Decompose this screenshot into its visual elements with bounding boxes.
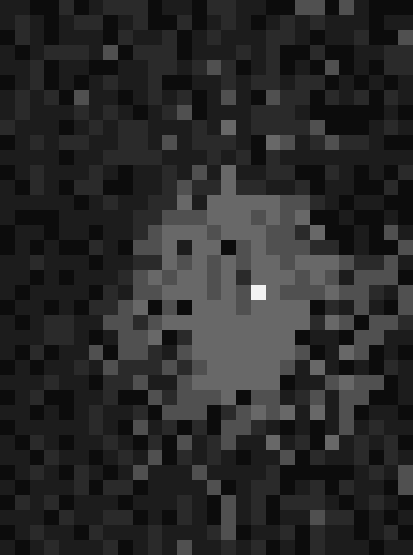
pixel: [74, 15, 89, 30]
pixel: [162, 345, 177, 360]
pixel: [384, 255, 399, 270]
pixel: [280, 210, 295, 225]
pixel: [339, 210, 354, 225]
pixel: [236, 15, 251, 30]
pixel: [44, 210, 59, 225]
pixel: [148, 285, 163, 300]
pixel: [44, 75, 59, 90]
pixel: [207, 330, 222, 345]
pixel: [177, 510, 192, 525]
pixel: [325, 300, 340, 315]
pixel: [192, 15, 207, 30]
pixel: [59, 240, 74, 255]
pixel: [251, 450, 266, 465]
pixel: [74, 75, 89, 90]
pixel: [266, 345, 281, 360]
pixel: [162, 135, 177, 150]
pixel: [398, 45, 413, 60]
pixel: [354, 360, 369, 375]
pixel: [295, 540, 310, 555]
pixel: [295, 105, 310, 120]
pixel: [384, 195, 399, 210]
pixel: [266, 120, 281, 135]
pixel: [384, 450, 399, 465]
pixel: [30, 30, 45, 45]
pixel: [0, 375, 15, 390]
pixel: [354, 120, 369, 135]
pixel: [339, 270, 354, 285]
pixel: [103, 255, 118, 270]
pixel: [44, 390, 59, 405]
pixel: [295, 255, 310, 270]
pixel: [295, 375, 310, 390]
pixel: [162, 360, 177, 375]
pixel: [325, 345, 340, 360]
pixel: [251, 420, 266, 435]
pixel: [0, 450, 15, 465]
pixel: [177, 15, 192, 30]
pixel: [369, 285, 384, 300]
pixel: [236, 510, 251, 525]
pixel: [177, 405, 192, 420]
pixel: [369, 405, 384, 420]
pixel: [236, 540, 251, 555]
pixel: [221, 390, 236, 405]
pixel: [221, 210, 236, 225]
pixel: [162, 285, 177, 300]
pixel: [15, 195, 30, 210]
pixel: [251, 330, 266, 345]
pixel: [398, 465, 413, 480]
pixel: [295, 240, 310, 255]
pixel: [103, 225, 118, 240]
pixel: [118, 435, 133, 450]
pixel: [177, 390, 192, 405]
pixel: [207, 60, 222, 75]
pixel: [325, 30, 340, 45]
pixel: [384, 15, 399, 30]
pixel: [15, 240, 30, 255]
pixel: [207, 135, 222, 150]
pixel: [295, 495, 310, 510]
pixel: [398, 270, 413, 285]
pixel: [354, 240, 369, 255]
pixel: [251, 45, 266, 60]
pixel: [118, 150, 133, 165]
pixel: [162, 165, 177, 180]
pixel: [339, 330, 354, 345]
pixel: [295, 300, 310, 315]
pixel: [207, 495, 222, 510]
pixel: [118, 15, 133, 30]
pixel: [177, 60, 192, 75]
pixel: [133, 315, 148, 330]
pixel: [133, 270, 148, 285]
pixel: [295, 30, 310, 45]
pixel: [192, 225, 207, 240]
pixel: [89, 465, 104, 480]
pixel: [15, 105, 30, 120]
pixel: [221, 105, 236, 120]
pixel: [0, 510, 15, 525]
pixel: [118, 330, 133, 345]
pixel: [251, 120, 266, 135]
pixel: [103, 210, 118, 225]
pixel: [162, 375, 177, 390]
pixel: [44, 510, 59, 525]
pixel: [15, 135, 30, 150]
pixel: [118, 450, 133, 465]
pixel: [103, 15, 118, 30]
pixel: [177, 150, 192, 165]
pixel: [0, 405, 15, 420]
pixel: [89, 210, 104, 225]
pixel: [369, 30, 384, 45]
pixel: [118, 45, 133, 60]
pixel: [74, 210, 89, 225]
pixel: [133, 165, 148, 180]
pixel: [30, 360, 45, 375]
pixel: [118, 105, 133, 120]
pixel: [221, 0, 236, 15]
pixel: [192, 90, 207, 105]
pixel: [15, 360, 30, 375]
pixel: [266, 495, 281, 510]
pixel: [221, 270, 236, 285]
pixel: [133, 0, 148, 15]
